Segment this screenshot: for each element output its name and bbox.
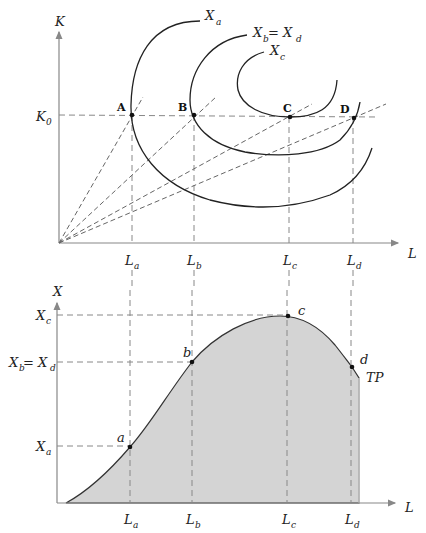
svg-text:c: c [292,261,297,271]
tick-la-bottom: L a [123,512,138,530]
svg-text:L: L [282,253,292,268]
tick-lc-bottom: L c [281,512,296,530]
x-axis-label: X [52,284,63,299]
svg-text:d: d [356,261,362,271]
point-a-bottom [128,445,133,450]
k0-label: K 0 [35,109,52,127]
point-c-top [288,115,293,120]
svg-text:0: 0 [46,117,52,127]
k-axis-label: K [54,14,66,29]
svg-text:X: X [269,43,280,58]
svg-text:c: c [291,520,296,530]
svg-text:L: L [186,253,196,268]
point-d-bottom-label: d [360,352,368,367]
svg-text:X: X [8,355,19,370]
ray-c [59,104,312,243]
svg-text:d: d [296,34,302,44]
tick-ld-top: L d [346,253,362,271]
svg-text:a: a [216,17,221,27]
svg-text:L: L [124,253,134,268]
l-axis-bottom-label: L [404,500,414,515]
tp-curve-label: TP [366,370,384,385]
svg-text:L: L [346,253,356,268]
point-a-label: A [116,101,126,114]
point-b-bottom-label: b [183,345,191,360]
bottom-panel: X L X c X b = X d X a a b [8,284,414,530]
tick-xb-xd: X b = X d [8,355,56,373]
point-a-top [130,113,135,118]
tick-lc-top: L c [282,253,297,271]
tick-la-top: L a [124,253,139,271]
svg-text:X: X [35,439,46,454]
point-d-bottom [350,365,355,370]
isoquant-xa [131,21,372,207]
tick-lb-top: L b [186,253,202,271]
svg-text:d: d [50,363,56,373]
point-c-bottom-label: c [298,303,306,318]
point-b-label: B [178,101,187,114]
svg-text:d: d [354,520,360,530]
svg-text:c: c [46,316,51,326]
ray-d [59,104,386,243]
tick-lb-bottom: L b [185,512,201,530]
isoquant-xc-label: X c [269,43,285,62]
svg-text:= X: = X [23,355,48,370]
svg-text:L: L [344,512,354,527]
svg-text:c: c [280,52,285,62]
isoquant-xb-xd-label-eq: = X d [268,25,302,44]
point-b-bottom [190,360,195,365]
svg-text:= X: = X [268,25,293,40]
tick-ld-bottom: L d [344,512,360,530]
svg-text:L: L [281,512,291,527]
tick-xa: X a [35,439,51,457]
point-d-label: D [340,103,350,116]
svg-text:X: X [35,308,46,323]
svg-text:a: a [134,261,139,271]
svg-text:a: a [133,520,138,530]
l-axis-top-label: L [407,246,417,261]
svg-text:b: b [196,261,202,271]
top-panel: K L K 0 X a X b = [35,8,417,271]
svg-text:L: L [123,512,133,527]
point-c-label: C [283,102,292,115]
tick-xc: X c [35,308,51,326]
total-product-curve [66,316,359,503]
isoquant-total-product-diagram: K L K 0 X a X b = [0,0,426,533]
point-d-top [352,116,357,121]
point-a-bottom-label: a [117,430,125,445]
ray-a [59,97,143,243]
svg-text:L: L [185,512,195,527]
svg-text:X: X [252,25,263,40]
svg-text:a: a [46,447,51,457]
point-c-bottom [286,314,291,319]
isoquant-xb-xd-label: X b [252,25,269,44]
point-b-top [192,113,197,118]
isoquant-xa-label: X a [204,8,221,27]
svg-text:b: b [195,520,201,530]
k0-guide [59,115,378,117]
svg-text:X: X [204,8,215,23]
